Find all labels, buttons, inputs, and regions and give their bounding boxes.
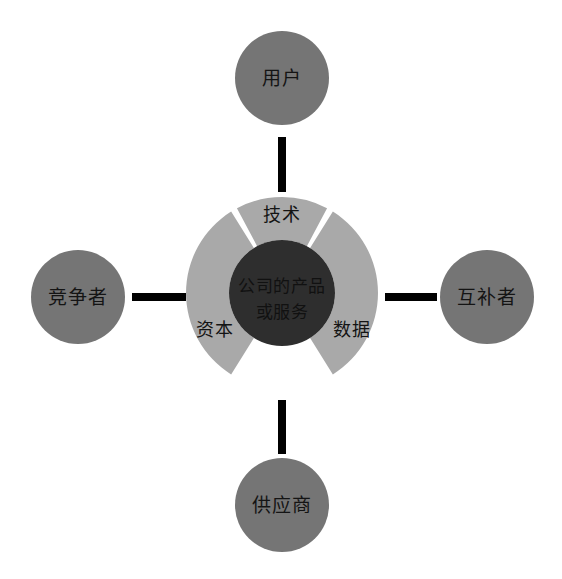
ring-label-capital: 资本 [196, 319, 234, 340]
ring-label-data: 数据 [333, 319, 371, 340]
outer-node-competitors[interactable]: 竞争者 [31, 250, 125, 344]
outer-node-suppliers[interactable]: 供应商 [235, 458, 329, 552]
ecosystem-canvas: 技术 资本 数据 公司的产品 或服务 用户 竞争者 互补者 供应商 [0, 0, 562, 579]
node-complementors-label: 互补者 [457, 286, 517, 308]
company-core-label-line2: 或服务 [256, 302, 309, 322]
outer-node-users[interactable]: 用户 [235, 31, 329, 125]
ring-label-technology: 技术 [263, 204, 301, 225]
outer-node-complementors[interactable]: 互补者 [440, 250, 534, 344]
node-users-label: 用户 [262, 67, 302, 89]
node-competitors-label: 竞争者 [48, 286, 108, 308]
node-suppliers-label: 供应商 [252, 494, 312, 516]
ecosystem-diagram: 技术 资本 数据 公司的产品 或服务 用户 竞争者 互补者 供应商 [0, 0, 562, 579]
company-core-label-line1: 公司的产品 [238, 276, 326, 296]
